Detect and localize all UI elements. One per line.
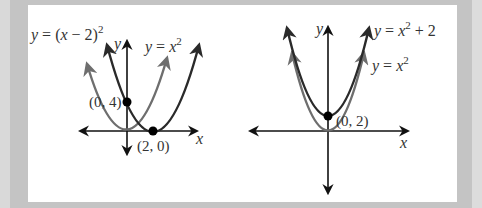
parabola-translations-figure: y = (x − 2)2 y y = x2 x (0, 4) (2, 0) y … — [0, 0, 482, 208]
right-y-axis-label: y — [314, 20, 324, 38]
point-0-4-label: (0, 4) — [89, 94, 122, 111]
left-graph: y = (x − 2)2 y y = x2 x (0, 4) (2, 0) — [29, 23, 203, 155]
point-2-0-label: (2, 0) — [137, 138, 170, 155]
label-shifted-curve: y = (x − 2)2 — [29, 23, 103, 44]
left-y-axis-label: y — [112, 35, 122, 53]
label-x-squared-right: y = x2 — [370, 54, 409, 75]
label-shifted-up-curve: y = x2 + 2 — [372, 19, 436, 40]
point-0-2-label: (0, 2) — [336, 113, 369, 130]
point-2-0-dot — [149, 127, 158, 136]
point-0-4-dot — [123, 98, 132, 107]
left-x-axis-label: x — [195, 130, 203, 147]
left-curve-shifted-right — [107, 45, 199, 132]
right-graph: y y = x2 + 2 y = x2 x (0, 2) — [250, 19, 436, 193]
point-0-2-dot — [324, 112, 333, 121]
right-x-axis-label: x — [399, 134, 407, 151]
label-x-squared-left: y = x2 — [143, 35, 182, 56]
